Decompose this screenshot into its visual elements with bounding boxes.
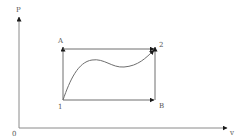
origin-label: 0 (12, 130, 16, 138)
x-axis-label: v (229, 129, 234, 137)
path-1-2-curve (63, 50, 154, 100)
pv-diagram: P v 0 A 2 1 B (0, 0, 244, 139)
point-label-A: A (57, 37, 64, 45)
point-label-2: 2 (159, 41, 163, 49)
point-label-1: 1 (58, 103, 62, 111)
point-label-B: B (159, 102, 164, 110)
process-paths (63, 47, 155, 100)
labels: P v 0 A 2 1 B (12, 6, 234, 138)
y-axis-label: P (16, 6, 21, 14)
axes (19, 17, 227, 128)
